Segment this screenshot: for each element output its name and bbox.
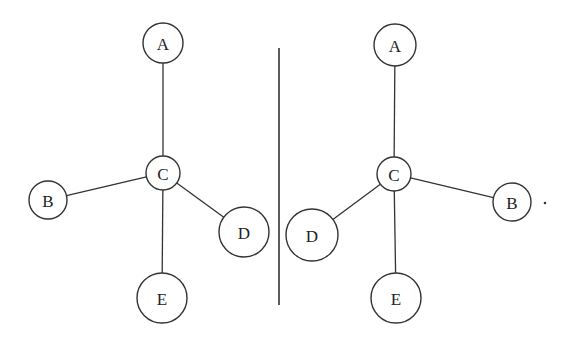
left-molecule-tree: ACBDE (29, 23, 269, 323)
right-edge-c-a (394, 66, 395, 157)
right-node-e: E (371, 273, 421, 323)
left-node-a: A (143, 23, 183, 63)
right-edge-c-e (394, 191, 395, 273)
node-label: C (157, 165, 168, 184)
left-node-b: B (29, 181, 67, 219)
left-edge-c-b (66, 177, 146, 196)
right-node-c: C (377, 157, 411, 191)
node-label: B (42, 192, 53, 211)
node-label: D (306, 227, 318, 246)
left-edge-c-e (162, 190, 163, 273)
left-node-e: E (137, 273, 187, 323)
left-node-c: C (146, 156, 180, 190)
right-node-a: A (374, 24, 416, 66)
node-label: B (506, 194, 517, 213)
right-edge-c-d (333, 184, 380, 219)
node-label: E (157, 290, 167, 309)
left-edge-c-d (177, 183, 224, 217)
right-edge-c-b (411, 178, 494, 198)
trailing-dot (544, 202, 547, 205)
node-label: D (238, 224, 250, 243)
right-node-d: D (286, 209, 338, 261)
node-label: C (388, 166, 399, 185)
node-label: A (389, 37, 402, 56)
node-label: E (391, 290, 401, 309)
right-node-b: B (493, 183, 531, 221)
right-molecule-tree: ACBDE (286, 24, 531, 323)
node-label: A (157, 35, 170, 54)
diagram-canvas: ACBDE ACBDE (0, 0, 562, 348)
left-node-d: D (219, 207, 269, 257)
